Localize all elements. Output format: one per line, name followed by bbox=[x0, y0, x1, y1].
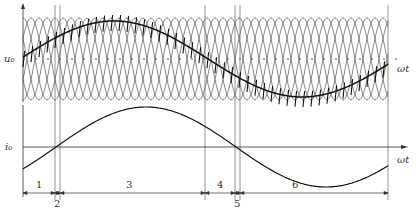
interval-label-4: 4 bbox=[217, 180, 223, 190]
u0-axis-label: u₀ bbox=[4, 54, 14, 64]
interval-label-3: 3 bbox=[126, 180, 132, 190]
lower-omega-t-label: ωt bbox=[397, 155, 409, 165]
interval-label-6: 6 bbox=[292, 180, 298, 190]
interval-boundary-lines bbox=[55, 5, 388, 200]
interval-label-1: 1 bbox=[36, 180, 42, 190]
phase-voltage-envelopes bbox=[23, 18, 388, 100]
interval-dimension-arrows bbox=[23, 192, 388, 195]
interval-label-5: 5 bbox=[234, 199, 240, 209]
interval-label-2: 2 bbox=[54, 199, 60, 209]
cycloconverter-waveform-diagram bbox=[0, 0, 419, 217]
i0-axis-label: i₀ bbox=[5, 142, 12, 152]
upper-omega-t-label: ωt bbox=[397, 64, 409, 74]
